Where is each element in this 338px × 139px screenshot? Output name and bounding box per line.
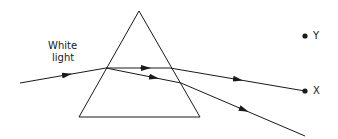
point-x-dot <box>302 88 307 93</box>
prism-triangle <box>79 11 200 117</box>
prism-diagram <box>0 0 338 139</box>
ray-2-inside-arrow-icon <box>148 76 154 77</box>
label-point-x: X <box>313 85 320 96</box>
point-y-dot <box>302 33 307 38</box>
label-point-y: Y <box>313 30 319 41</box>
label-light: light <box>52 52 74 63</box>
ray-1-outside-arrow-icon <box>233 79 238 80</box>
refracted-ray-2-inside <box>106 68 181 83</box>
incident-ray-arrow-icon <box>62 75 67 76</box>
ray-2-outside-arrow-icon <box>238 107 244 110</box>
label-white: White <box>48 40 77 51</box>
